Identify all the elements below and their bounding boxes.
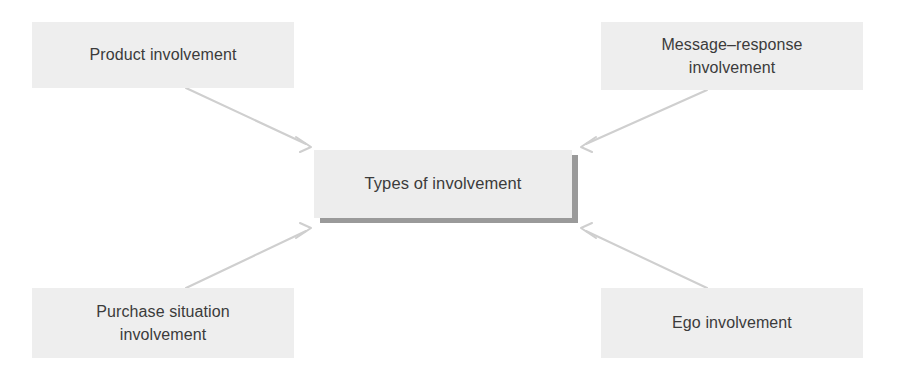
arrow-ego-to-center [581, 223, 707, 288]
node-types-of-involvement: Types of involvement [314, 150, 572, 218]
arrow-purchase-situation-to-center [186, 223, 311, 288]
involvement-types-diagram: Product involvement Message–response inv… [0, 0, 897, 368]
node-ego-involvement: Ego involvement [601, 288, 863, 358]
node-product-involvement-label: Product involvement [90, 43, 237, 66]
node-types-of-involvement-label: Types of involvement [365, 172, 522, 196]
node-purchase-situation-involvement: Purchase situation involvement [32, 288, 294, 358]
arrow-message-response-to-center [581, 90, 707, 152]
node-product-involvement: Product involvement [32, 22, 294, 88]
node-message-response-involvement-label: Message–response involvement [661, 33, 802, 79]
node-ego-involvement-label: Ego involvement [672, 311, 792, 334]
arrow-product-to-center [186, 88, 311, 152]
node-message-response-involvement: Message–response involvement [601, 22, 863, 90]
node-purchase-situation-involvement-label: Purchase situation involvement [96, 300, 229, 346]
